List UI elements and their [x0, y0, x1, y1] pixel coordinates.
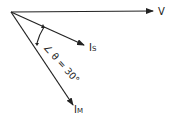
- label-v: V: [158, 6, 165, 17]
- label-im: IM: [74, 104, 83, 115]
- phasor-diagram: V IS IM ∠ θ = 30°: [0, 0, 173, 121]
- phasor-v: V: [11, 6, 165, 17]
- label-is: IS: [89, 42, 97, 53]
- angle-arc: [35, 24, 45, 46]
- angle-label: ∠ θ = 30°: [42, 42, 82, 85]
- phasor-im: IM: [11, 12, 83, 115]
